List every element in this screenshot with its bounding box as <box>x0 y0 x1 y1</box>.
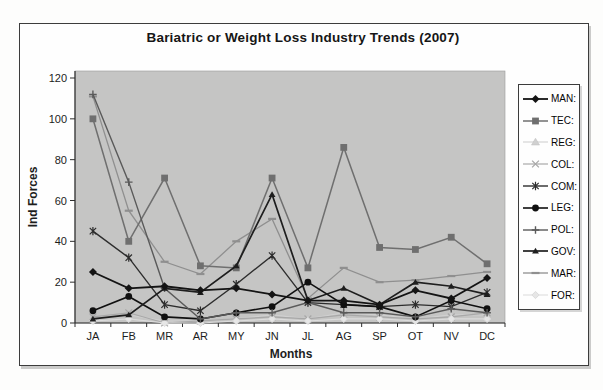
x-axis-title: Months <box>270 347 313 361</box>
x-tick-label: DC <box>479 330 495 342</box>
x-tick-label: MR <box>156 330 173 342</box>
y-tick-label: 60 <box>55 195 67 207</box>
pol-marker-icon <box>522 224 549 236</box>
legend-item-man: MAN: <box>522 89 579 109</box>
x-tick-label: JL <box>302 330 314 342</box>
x-tick-label: OT <box>408 330 424 342</box>
legend-item-pol: POL: <box>522 220 579 240</box>
man-marker-icon <box>522 93 549 105</box>
legend-item-leg: LEG: <box>522 198 579 218</box>
legend-label-col: COL: <box>551 159 574 170</box>
legend-item-reg: REG: <box>522 132 579 152</box>
mar-marker-icon <box>522 267 549 279</box>
x-tick-label: AR <box>193 330 208 342</box>
legend-label-tec: TEC: <box>551 115 574 126</box>
y-tick-label: 40 <box>55 235 67 247</box>
legend-label-mar: MAR: <box>551 268 576 279</box>
legend-label-gov: GOV: <box>551 246 576 257</box>
legend-item-tec: TEC: <box>522 111 579 131</box>
legend-label-leg: LEG: <box>551 202 574 213</box>
chart-figure: 020406080100120JAFBMRARMYJNJLAGSPOTNVDC … <box>0 0 603 390</box>
x-tick-label: FB <box>122 330 136 342</box>
legend-label-reg: REG: <box>551 137 575 148</box>
chart-canvas: 020406080100120JAFBMRARMYJNJLAGSPOTNVDC <box>0 0 603 390</box>
chart-title: Bariatric or Weight Loss Industry Trends… <box>147 30 460 45</box>
gov-marker-icon <box>522 245 549 257</box>
legend-item-mar: MAR: <box>522 263 579 283</box>
legend-item-gov: GOV: <box>522 241 579 261</box>
legend-item-com: COM: <box>522 176 579 196</box>
x-tick-label: NV <box>444 330 460 342</box>
y-tick-label: 0 <box>61 317 67 329</box>
x-tick-label: SP <box>372 330 387 342</box>
x-tick-label: JA <box>86 330 100 342</box>
y-tick-label: 20 <box>55 276 67 288</box>
leg-marker-icon <box>522 202 549 214</box>
y-tick-label: 80 <box>55 154 67 166</box>
x-tick-label: AG <box>336 330 352 342</box>
legend-label-man: MAN: <box>551 93 576 104</box>
y-axis-title: Ind Forces <box>26 167 40 228</box>
legend: MAN:TEC:REG:COL:COM:LEG:POL:GOV:MAR:FOR: <box>518 84 580 310</box>
y-tick-label: 100 <box>49 113 67 125</box>
com-marker-icon <box>522 180 549 192</box>
for-marker-icon <box>522 289 549 301</box>
y-tick-label: 120 <box>49 72 67 84</box>
legend-label-com: COM: <box>551 181 577 192</box>
legend-item-col: COL: <box>522 154 579 174</box>
x-tick-label: JN <box>265 330 279 342</box>
col-marker-icon <box>522 158 549 170</box>
x-tick-label: MY <box>228 330 245 342</box>
tec-marker-icon <box>522 115 549 127</box>
legend-label-for: FOR: <box>551 290 575 301</box>
legend-label-pol: POL: <box>551 224 574 235</box>
legend-item-for: FOR: <box>522 285 579 305</box>
reg-marker-icon <box>522 136 549 148</box>
